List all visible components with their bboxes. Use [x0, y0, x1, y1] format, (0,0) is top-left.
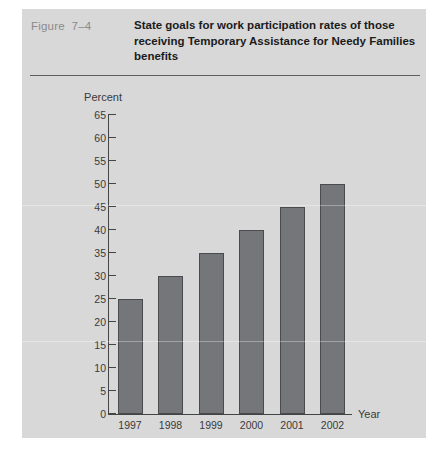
- y-tick: 45: [68, 201, 116, 213]
- x-axis-title: Year: [358, 408, 380, 420]
- y-tick: 30: [68, 270, 116, 282]
- y-tick-label: 25: [94, 293, 106, 305]
- y-tick: 55: [68, 155, 116, 167]
- figure-number: Figure 7–4: [31, 20, 91, 32]
- y-tick-label: 35: [94, 247, 106, 259]
- y-tick-label: 10: [94, 362, 106, 374]
- y-tick-label: 30: [94, 270, 106, 282]
- y-tick-label: 50: [94, 178, 106, 190]
- x-axis-line: [108, 414, 352, 415]
- y-tick-mark: [108, 160, 116, 161]
- y-tick: 15: [68, 339, 116, 351]
- x-tick-label: 2000: [230, 419, 274, 431]
- figure-title: State goals for work participation rates…: [134, 18, 422, 65]
- y-tick-mark: [108, 367, 116, 368]
- y-tick: 5: [68, 385, 116, 397]
- bar-1997: [118, 299, 143, 414]
- bar-1998: [158, 276, 183, 414]
- y-tick-mark: [108, 229, 116, 230]
- y-tick-label: 15: [94, 339, 106, 351]
- y-tick: 25: [68, 293, 116, 305]
- y-tick-label: 60: [94, 132, 106, 144]
- bar-2001: [280, 207, 305, 414]
- bar-2000: [239, 230, 264, 414]
- bar-1999: [199, 253, 224, 414]
- y-tick-label: 40: [94, 224, 106, 236]
- y-tick-mark: [108, 413, 116, 414]
- y-tick-mark: [108, 275, 116, 276]
- y-tick: 35: [68, 247, 116, 259]
- y-tick: 65: [68, 109, 116, 121]
- y-tick-mark: [108, 137, 116, 138]
- x-tick-label: 1998: [149, 419, 193, 431]
- y-tick-mark: [108, 252, 116, 253]
- x-tick-label: 1997: [108, 419, 152, 431]
- bar-2002: [320, 184, 345, 414]
- y-tick: 60: [68, 132, 116, 144]
- y-tick-mark: [108, 321, 116, 322]
- y-tick-mark: [108, 114, 116, 115]
- y-tick: 10: [68, 362, 116, 374]
- y-tick-label: 20: [94, 316, 106, 328]
- y-tick: 20: [68, 316, 116, 328]
- figure-header: Figure 7–4 State goals for work particip…: [22, 9, 426, 77]
- y-tick-mark: [108, 183, 116, 184]
- figure-panel: Figure 7–4 State goals for work particip…: [22, 9, 426, 438]
- bar-chart: Percent Year 05101520253035404550556065 …: [22, 77, 426, 438]
- x-tick-label: 1999: [189, 419, 233, 431]
- y-tick-label: 55: [94, 155, 106, 167]
- y-tick-label: 45: [94, 201, 106, 213]
- y-tick: 50: [68, 178, 116, 190]
- y-tick-mark: [108, 390, 116, 391]
- y-tick-mark: [108, 298, 116, 299]
- y-tick-label: 65: [94, 109, 106, 121]
- x-tick-label: 2001: [270, 419, 314, 431]
- y-tick-mark: [108, 206, 116, 207]
- title-divider: [30, 75, 420, 76]
- y-tick-label: 0: [100, 408, 106, 420]
- y-tick-mark: [108, 344, 116, 345]
- y-tick: 40: [68, 224, 116, 236]
- y-axis-title: Percent: [50, 91, 122, 103]
- x-tick-label: 2002: [311, 419, 355, 431]
- y-tick-label: 5: [100, 385, 106, 397]
